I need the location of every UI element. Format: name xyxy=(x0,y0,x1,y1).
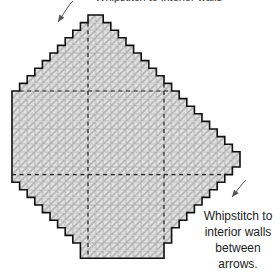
stitch-row xyxy=(20,83,172,91)
stitch-row xyxy=(12,144,232,152)
stitch-row xyxy=(65,38,126,46)
stitch-row xyxy=(12,175,225,183)
stitch-row xyxy=(27,190,209,198)
top-caption: Whipstitch to interior walls xyxy=(95,0,222,3)
stitch-row xyxy=(12,121,210,129)
stitch-row xyxy=(27,76,164,84)
stitch-row xyxy=(12,129,217,137)
stitch-row xyxy=(12,152,240,160)
caption-line-3: between arrows. xyxy=(196,240,280,272)
stitch-row xyxy=(12,99,187,107)
stitch-row xyxy=(80,251,164,259)
stitch-row xyxy=(35,197,202,205)
caption-line-1: Whipstitch to xyxy=(196,208,280,224)
stitch-row xyxy=(73,30,119,38)
stitch-row xyxy=(12,114,202,122)
stitch-row xyxy=(20,182,218,190)
stitch-row xyxy=(42,61,148,69)
stitch-row xyxy=(80,243,164,251)
stitch-row xyxy=(65,228,171,236)
stitch-row xyxy=(12,167,232,175)
stitch-row xyxy=(58,220,180,228)
stitch-row xyxy=(58,45,134,53)
stitch-row xyxy=(12,106,194,114)
stitch-row xyxy=(42,205,194,213)
bottom-right-arrow-icon xyxy=(232,180,246,197)
caption-line-2: interior walls xyxy=(196,224,280,240)
stitch-row xyxy=(50,213,187,221)
stitch-row xyxy=(88,15,103,23)
whipstitch-caption: Whipstitch to interior walls between arr… xyxy=(196,208,280,272)
stitch-row xyxy=(12,91,179,99)
stitch-row xyxy=(50,53,141,61)
top-left-arrow-icon xyxy=(58,1,73,22)
stitch-row xyxy=(12,137,225,145)
stitch-row xyxy=(12,159,240,167)
stitch-row xyxy=(35,68,157,76)
stitch-row xyxy=(80,23,110,31)
